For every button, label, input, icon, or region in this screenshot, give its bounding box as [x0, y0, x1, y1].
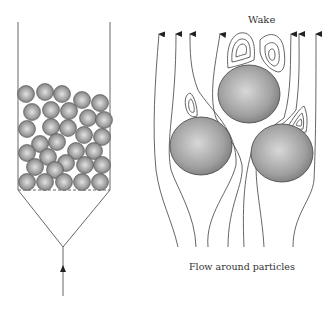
- bed-particle: [74, 174, 91, 191]
- inlet-arrowhead-icon: [60, 265, 66, 272]
- conical-inlet: [18, 190, 110, 247]
- bed-particle: [92, 174, 109, 191]
- bed-particle: [92, 95, 109, 112]
- vortex-top-left-inner: [236, 44, 247, 57]
- bed-particle: [49, 134, 66, 151]
- bed-particle: [19, 121, 36, 138]
- fluidized-bed-diagram: Wake Flow around particles: [0, 0, 335, 309]
- large-particle: [251, 124, 313, 182]
- bed-particle: [27, 159, 44, 176]
- vortex-left-outer: [185, 93, 197, 117]
- vortex-right-inner: [296, 119, 302, 126]
- large-particle: [218, 65, 280, 123]
- bed-particle: [24, 104, 41, 121]
- bed-particle: [96, 112, 113, 129]
- bed-particle: [43, 102, 60, 119]
- vortex-top-left-mid: [232, 39, 250, 62]
- wake-label: Wake: [248, 14, 275, 25]
- bed-particles: [18, 84, 113, 191]
- bed-particle: [37, 174, 54, 191]
- bed-particle: [94, 157, 111, 174]
- large-particle: [170, 117, 232, 175]
- bed-particle: [56, 174, 73, 191]
- bed-particle: [37, 84, 54, 101]
- bed-particle: [61, 103, 78, 120]
- bed-particle: [54, 86, 71, 103]
- bed-particle: [80, 110, 97, 127]
- bed-particle: [43, 119, 60, 136]
- figure-caption: Flow around particles: [189, 261, 295, 272]
- bed-particle: [19, 174, 36, 191]
- vortex-top-right-outer: [260, 35, 285, 72]
- bed-particle: [76, 127, 93, 144]
- vortex-top-right-mid: [265, 43, 279, 66]
- vortex-top-right-inner: [269, 49, 275, 60]
- bed-particle: [18, 86, 35, 103]
- vortex-left-inner: [189, 99, 195, 112]
- bed-particle: [77, 157, 94, 174]
- bed-particle: [60, 120, 77, 137]
